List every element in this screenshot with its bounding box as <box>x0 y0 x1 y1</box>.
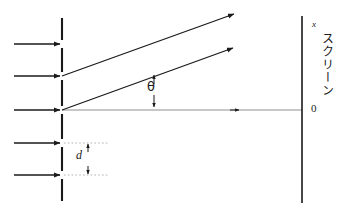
origin-label: 0 <box>311 103 317 114</box>
screen-caption-label: スクリーン <box>320 32 332 97</box>
slit-spacing-marker <box>64 143 108 175</box>
diffraction-diagram: θ d x 0 スクリーン <box>0 0 349 220</box>
incident-wave-arrows <box>14 44 60 175</box>
diffracted-rays <box>62 14 234 110</box>
angle-theta-label: θ <box>147 80 155 93</box>
diagram-canvas <box>0 0 349 220</box>
slit-spacing-label: d <box>76 149 82 161</box>
screen-axis-label: x <box>312 20 316 29</box>
